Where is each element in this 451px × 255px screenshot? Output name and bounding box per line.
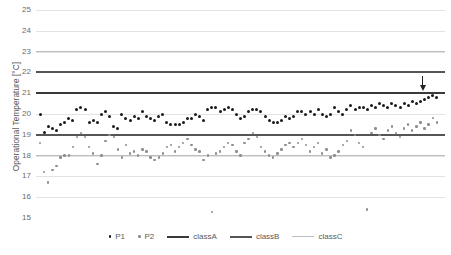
data-point-p1 [67, 117, 70, 120]
data-point-p1 [63, 121, 66, 124]
data-point-p2 [59, 156, 61, 158]
data-point-p1 [292, 115, 295, 118]
data-point-p1 [264, 115, 267, 118]
data-point-p1 [358, 106, 361, 109]
data-point-p2 [80, 132, 82, 134]
data-point-p2 [129, 152, 131, 154]
data-point-p1 [390, 102, 393, 105]
data-point-p1 [198, 115, 201, 118]
data-point-p2 [202, 159, 204, 161]
data-point-p2 [387, 129, 389, 131]
legend-label-classc: classC [318, 232, 342, 241]
data-point-p2 [301, 138, 303, 140]
data-point-p1 [431, 94, 434, 97]
reference-line-classa [36, 92, 445, 94]
data-point-p2 [350, 129, 352, 131]
data-point-p1 [399, 106, 402, 109]
data-point-p1 [75, 108, 78, 111]
plot-area [36, 10, 445, 218]
data-point-p1 [304, 113, 307, 116]
data-point-p2 [84, 136, 86, 138]
legend-item-classb[interactable]: classB [230, 232, 280, 241]
data-point-p1 [169, 123, 172, 126]
y-axis-tick-labels: 2524232221201918171615 [5, 0, 31, 255]
data-point-p2 [243, 142, 245, 144]
data-point-p2 [284, 144, 286, 146]
data-point-p2 [292, 146, 294, 148]
data-point-p1 [386, 106, 389, 109]
data-point-p1 [141, 110, 144, 113]
data-point-p1 [112, 125, 115, 128]
data-point-p2 [276, 152, 278, 154]
data-point-p2 [272, 156, 274, 158]
data-point-p2 [309, 150, 311, 152]
data-point-p2 [223, 146, 225, 148]
data-point-p2 [378, 134, 380, 136]
data-point-p1 [333, 106, 336, 109]
data-point-p2 [178, 146, 180, 148]
data-point-p1 [210, 106, 213, 109]
data-point-p1 [309, 110, 312, 113]
data-point-p1 [186, 117, 189, 120]
legend-label-p2: P2 [145, 232, 155, 241]
data-point-p1 [382, 104, 385, 107]
data-point-p1 [296, 110, 299, 113]
legend-item-classa[interactable]: classA [167, 232, 217, 241]
data-point-p2 [427, 123, 429, 125]
data-point-p2 [423, 127, 425, 129]
data-point-p1 [239, 117, 242, 120]
data-point-p1 [133, 115, 136, 118]
data-point-p2 [260, 146, 262, 148]
data-point-p2 [227, 142, 229, 144]
data-point-p2 [47, 181, 49, 183]
data-point-p2 [63, 154, 65, 156]
data-point-p1 [255, 108, 258, 111]
legend-item-classc[interactable]: classC [292, 232, 342, 241]
data-point-p2 [247, 138, 249, 140]
legend-item-p1[interactable]: P1 [109, 232, 125, 241]
data-point-p1 [206, 108, 209, 111]
data-point-p1 [284, 115, 287, 118]
data-point-p1 [39, 113, 42, 116]
data-point-p1 [394, 104, 397, 107]
data-point-p1 [219, 110, 222, 113]
y-tick-label: 24 [5, 27, 31, 35]
data-point-p2 [329, 156, 331, 158]
legend-line-classc-icon [292, 236, 314, 238]
data-point-p2 [88, 146, 90, 148]
data-point-p2 [166, 146, 168, 148]
data-point-p2 [411, 129, 413, 131]
data-point-p1 [366, 108, 369, 111]
data-point-p1 [96, 121, 99, 124]
data-point-p2 [432, 117, 434, 119]
data-point-p2 [68, 154, 70, 156]
data-point-p1 [419, 100, 422, 103]
data-point-p2 [346, 140, 348, 142]
gridline [36, 31, 445, 32]
data-point-p1 [79, 106, 82, 109]
data-point-p2 [362, 146, 364, 148]
data-point-p1 [51, 127, 54, 130]
data-point-p2 [337, 150, 339, 152]
data-point-p2 [125, 144, 127, 146]
data-point-p2 [153, 159, 155, 161]
data-point-p1 [88, 121, 91, 124]
gridline [36, 197, 445, 198]
data-point-p2 [370, 132, 372, 134]
data-point-p1 [435, 96, 438, 99]
reference-line-classc [36, 51, 445, 53]
data-point-p2 [186, 138, 188, 140]
data-point-p2 [366, 208, 368, 210]
data-point-p1 [235, 113, 238, 116]
legend-item-p2[interactable]: P2 [138, 232, 154, 241]
data-point-p2 [182, 142, 184, 144]
data-point-p1 [124, 117, 127, 120]
data-point-p1 [108, 115, 111, 118]
legend-marker-p2-icon [138, 235, 141, 238]
data-point-p1 [300, 110, 303, 113]
data-point-p1 [59, 123, 62, 126]
data-point-p2 [395, 132, 397, 134]
data-point-p1 [174, 123, 177, 126]
data-point-p2 [399, 136, 401, 138]
data-point-p1 [227, 106, 230, 109]
